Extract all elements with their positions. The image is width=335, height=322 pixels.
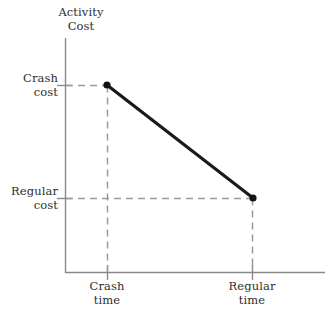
y-axis-title: Activity Cost: [44, 6, 118, 33]
time-cost-tradeoff-line: [107, 85, 253, 198]
x-tick-label-regular-time: Regular time: [218, 280, 286, 307]
crash-point-marker: [103, 81, 110, 88]
x-tick-label-crash-time: Crash time: [77, 280, 137, 307]
chart-canvas: [0, 0, 335, 322]
activity-cost-time-chart: Activity Cost Crash cost Regular cost Cr…: [0, 0, 335, 322]
y-tick-label-crash-cost: Crash cost: [2, 72, 58, 99]
regular-point-marker: [249, 194, 256, 201]
y-tick-label-regular-cost: Regular cost: [0, 185, 58, 212]
